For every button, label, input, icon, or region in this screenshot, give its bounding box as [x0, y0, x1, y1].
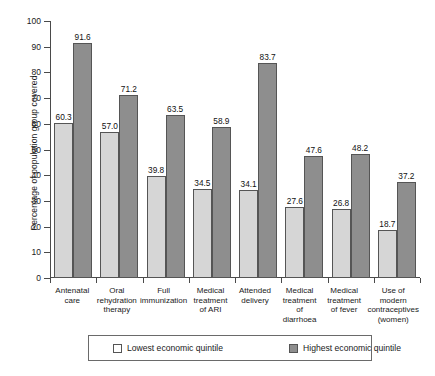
bar-group: 34.558.9 — [189, 21, 235, 278]
bar-value-label: 48.2 — [352, 143, 368, 153]
bar-value-label: 37.2 — [398, 171, 414, 181]
category-label: Antenatalcare — [50, 286, 95, 324]
legend-item[interactable]: Highest economic quintile — [289, 343, 401, 353]
y-axis-tick-label: 30 — [32, 196, 41, 206]
bar-value-label: 34.1 — [241, 179, 257, 189]
x-axis-tick — [374, 278, 375, 283]
y-axis-tick-label: 70 — [32, 93, 41, 103]
bar-value-label: 39.8 — [148, 165, 164, 175]
x-axis-tick — [420, 278, 421, 283]
x-axis-tick — [189, 278, 190, 283]
bar-value-label: 18.7 — [379, 219, 395, 229]
bar-group: 18.737.2 — [374, 21, 420, 278]
category-label-line: contraceptives — [367, 305, 419, 315]
x-axis-category-labels: AntenatalcareOralrehydrationtherapyFulli… — [50, 286, 420, 324]
category-label: Fullimmunization — [139, 286, 188, 324]
x-axis-tick — [143, 278, 144, 283]
chart-legend: Lowest economic quintileHighest economic… — [88, 335, 372, 361]
bar: 37.2 — [397, 182, 416, 278]
bar-group: 60.391.6 — [50, 21, 96, 278]
bar: 34.5 — [193, 189, 212, 278]
bar-value-label: 57.0 — [102, 121, 118, 131]
bar-value-label: 27.6 — [287, 196, 303, 206]
y-axis-tick-label: 0 — [36, 273, 41, 283]
category-label-line: Oral — [96, 286, 139, 296]
x-axis-tick — [96, 278, 97, 283]
bar: 26.8 — [332, 209, 351, 278]
bar: 60.3 — [54, 123, 73, 278]
y-axis-tick-label: 10 — [32, 247, 41, 257]
bar-value-label: 91.6 — [75, 32, 91, 42]
bar: 83.7 — [258, 63, 277, 278]
y-axis-tick-label: 20 — [32, 222, 41, 232]
bar-value-label: 58.9 — [213, 116, 229, 126]
category-label-line: Attended — [234, 286, 277, 296]
category-label: Medicaltreatmentof fever — [322, 286, 367, 324]
category-label: Medicaltreatmentof diarrhoea — [277, 286, 322, 324]
bar: 47.6 — [304, 156, 323, 278]
category-label: Use ofmoderncontraceptives(women) — [366, 286, 420, 324]
plot-area: 0102030405060708090100 60.391.657.071.23… — [50, 21, 420, 278]
bar-groups: 60.391.657.071.239.863.534.558.934.183.7… — [50, 21, 420, 278]
bar: 27.6 — [285, 207, 304, 278]
bar: 58.9 — [212, 127, 231, 278]
category-label-line: of fever — [323, 305, 366, 315]
category-label-line: modern — [367, 296, 419, 306]
category-label: Attendeddelivery — [233, 286, 278, 324]
y-axis-tick-label: 80 — [32, 67, 41, 77]
y-axis-tick-label: 40 — [32, 170, 41, 180]
category-label-line: Antenatal — [51, 286, 94, 296]
category-label: Oralrehydrationtherapy — [95, 286, 140, 324]
x-axis-tick — [50, 278, 51, 283]
legend-label: Lowest economic quintile — [127, 343, 223, 353]
bar-group: 27.647.6 — [281, 21, 327, 278]
category-label-line: Use of — [367, 286, 419, 296]
bar: 34.1 — [239, 190, 258, 278]
category-label: Medicaltreatmentof ARI — [188, 286, 233, 324]
legend-item[interactable]: Lowest economic quintile — [113, 343, 223, 353]
bar-group: 34.183.7 — [235, 21, 281, 278]
y-axis-tick-label: 90 — [32, 42, 41, 52]
bar-group: 26.848.2 — [328, 21, 374, 278]
bar-value-label: 34.5 — [194, 178, 210, 188]
bar-value-label: 83.7 — [260, 52, 276, 62]
category-label-line: Medical — [189, 286, 232, 296]
category-label-line: treatment — [189, 296, 232, 306]
category-label-line: delivery — [234, 296, 277, 306]
category-label-line: care — [51, 296, 94, 306]
bar: 39.8 — [147, 176, 166, 278]
y-axis-tick-label: 50 — [32, 145, 41, 155]
bar-value-label: 71.2 — [121, 84, 137, 94]
category-label-line: therapy — [96, 305, 139, 315]
category-label-line: of diarrhoea — [278, 305, 321, 324]
bar-chart: Percentage of population group covered 0… — [0, 0, 435, 376]
bar-value-label: 60.3 — [56, 112, 72, 122]
bar-group: 39.863.5 — [143, 21, 189, 278]
category-label-line: treatment — [278, 296, 321, 306]
category-label-line: of ARI — [189, 305, 232, 315]
bar-group: 57.071.2 — [96, 21, 142, 278]
y-axis-tick-label: 100 — [27, 16, 41, 26]
bar: 63.5 — [166, 115, 185, 278]
bar: 91.6 — [73, 43, 92, 278]
legend-label: Highest economic quintile — [303, 343, 401, 353]
bar-value-label: 63.5 — [167, 104, 183, 114]
category-label-line: Medical — [278, 286, 321, 296]
bar: 18.7 — [378, 230, 397, 278]
category-label-line: immunization — [140, 296, 187, 306]
bar: 57.0 — [100, 132, 119, 278]
bar: 71.2 — [119, 95, 138, 278]
x-axis-tick — [328, 278, 329, 283]
category-label-line: (women) — [367, 315, 419, 325]
x-axis-tick — [235, 278, 236, 283]
category-label-line: Full — [140, 286, 187, 296]
x-axis-tick — [281, 278, 282, 283]
category-label-line: Medical — [323, 286, 366, 296]
bar-value-label: 26.8 — [333, 198, 349, 208]
category-label-line: treatment — [323, 296, 366, 306]
legend-swatch-high — [289, 344, 298, 353]
y-axis-tick-label: 60 — [32, 119, 41, 129]
x-axis-ticks — [50, 278, 420, 283]
bar: 48.2 — [351, 154, 370, 278]
legend-swatch-low — [113, 344, 122, 353]
